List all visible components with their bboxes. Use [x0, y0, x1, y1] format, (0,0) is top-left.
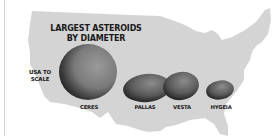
ceres-body [59, 44, 117, 100]
asteroid-label-hygeia: HYGEIA [204, 104, 238, 110]
asteroid-label-pallas: PALLAS [128, 104, 162, 110]
usa-map [0, 0, 273, 136]
asteroid-label-vesta: VESTA [167, 104, 197, 110]
title-line-2: BY DIAMETER [50, 34, 142, 44]
title-line-1: LARGEST ASTEROIDS [50, 24, 142, 34]
infographic-title: LARGEST ASTEROIDS BY DIAMETER [50, 24, 142, 44]
asteroid-label-ceres: CERES [74, 104, 104, 110]
scale-label-line-2: SCALE [25, 76, 55, 83]
scale-label-line-1: USA TO [25, 69, 55, 76]
scale-label: USA TO SCALE [25, 69, 55, 83]
